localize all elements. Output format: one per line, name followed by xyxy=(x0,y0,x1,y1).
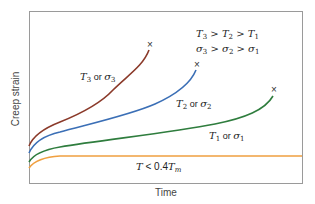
label-t3: T3 or σ3 xyxy=(80,71,115,84)
annotation-temperature-order: T3 > T2 > T1 xyxy=(196,28,259,41)
plot-frame xyxy=(30,12,303,184)
creep-chart: × × × T3 or σ3 T2 or σ2 T1 or σ1 T < 0.4… xyxy=(0,0,315,204)
label-t2: T2 or σ2 xyxy=(176,98,211,111)
label-t1: T1 or σ1 xyxy=(209,130,244,143)
y-axis-label: Creep strain xyxy=(10,72,21,126)
curve-t3 xyxy=(29,50,149,146)
x-axis-label: Time xyxy=(155,187,177,198)
rupture-marker-t3: × xyxy=(147,39,153,50)
annotation-stress-order: σ3 > σ2 > σ1 xyxy=(196,43,259,56)
rupture-marker-t1: × xyxy=(271,84,277,95)
rupture-marker-t2: × xyxy=(194,59,200,70)
label-low-temp: T < 0.4Tm xyxy=(136,161,182,174)
